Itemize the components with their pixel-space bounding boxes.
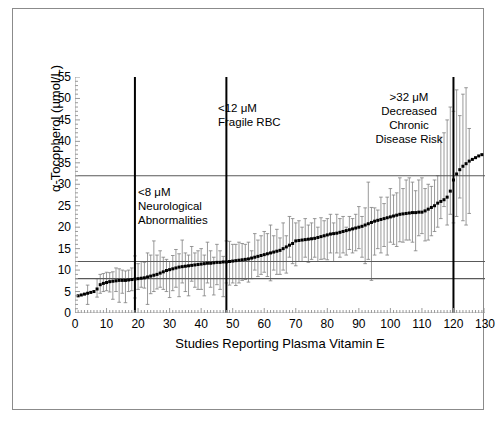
x-tick-label: 30: [163, 318, 176, 330]
x-tick-label: 20: [131, 318, 144, 330]
x-tick-label: 90: [352, 318, 365, 330]
x-tick-label: 110: [412, 318, 431, 330]
figure-root: 0510152025303540455055 α-Tocopherol (μmo…: [0, 0, 497, 429]
x-tick-label: 10: [100, 318, 113, 330]
x-axis-title: Studies Reporting Plasma Vitamin E: [75, 336, 485, 351]
annotation-chronic-disease: >32 μM Decreased Chronic Disease Risk: [369, 90, 449, 146]
y-tick-label: 0: [43, 307, 71, 319]
x-tick-label: 0: [72, 318, 79, 330]
annotation-neurological: <8 μM Neurological Abnormalities: [138, 185, 208, 227]
y-tick-label: 20: [43, 221, 71, 233]
x-tick-label: 60: [258, 318, 271, 330]
x-tick-label: 40: [194, 318, 207, 330]
y-axis-title: α-Tocopherol (μmol/L): [48, 49, 63, 209]
x-tick-label: 130: [475, 318, 495, 330]
x-tick-label: 80: [321, 318, 334, 330]
y-tick-label: 15: [43, 243, 71, 255]
y-tick-label: 10: [43, 264, 71, 276]
x-tick-label: 70: [289, 318, 302, 330]
figure-frame: 0510152025303540455055 α-Tocopherol (μmo…: [12, 8, 484, 410]
annotation-fragile-rbc: <12 μM Fragile RBC: [218, 101, 281, 129]
y-tick-label: 5: [43, 286, 71, 298]
x-axis-tick-labels: 0102030405060708090100110120130: [75, 318, 485, 334]
x-tick-label: 50: [226, 318, 239, 330]
x-tick-label: 120: [443, 318, 463, 330]
x-tick-label: 100: [380, 318, 400, 330]
